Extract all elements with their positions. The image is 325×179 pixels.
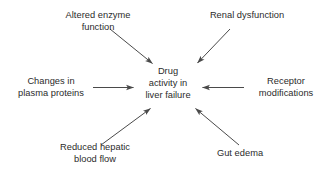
node-label-line: blood flow [40, 154, 150, 166]
arrow-reduced-hepatic-blood-flow-to-center [101, 109, 151, 146]
center-label-line: liver failure [136, 89, 200, 101]
node-reduced-hepatic-blood-flow: Reduced hepatic blood flow [40, 142, 150, 165]
arrow-gut-edema-to-center [196, 109, 240, 146]
center-label-line: Drug [136, 65, 200, 77]
node-changes-in-plasma-proteins: Changes in plasma proteins [4, 76, 98, 99]
node-gut-edema: Gut edema [200, 148, 280, 160]
node-label-line: plasma proteins [4, 88, 98, 100]
node-label-line: function [46, 22, 150, 34]
node-label-line: modifications [247, 88, 325, 100]
node-label-line: Reduced hepatic [40, 142, 150, 154]
node-label-line: Changes in [4, 76, 98, 88]
arrow-renal-dysfunction-to-center [198, 29, 231, 63]
node-label-line: Receptor [247, 76, 325, 88]
node-receptor-modifications: Receptor modifications [247, 76, 325, 99]
node-label-line: Renal dysfunction [188, 10, 306, 22]
center-label-line: activity in [136, 77, 200, 89]
arrow-altered-enzyme-function-to-center [110, 29, 153, 64]
node-label-line: Altered enzyme [46, 10, 150, 22]
node-label-line: Gut edema [200, 148, 280, 160]
influence-diagram: Altered enzyme function Renal dysfunctio… [0, 0, 325, 179]
node-renal-dysfunction: Renal dysfunction [188, 10, 306, 22]
node-altered-enzyme-function: Altered enzyme function [46, 10, 150, 33]
node-drug-activity-in-liver-failure: Drug activity in liver failure [136, 65, 200, 102]
